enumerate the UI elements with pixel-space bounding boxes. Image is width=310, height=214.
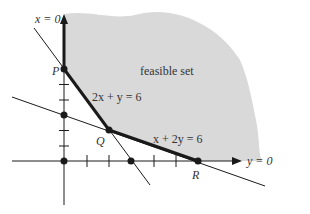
- point-q: [106, 127, 113, 134]
- point-x-intercept: [128, 158, 135, 165]
- feasible-set-diagram: x = 0 y = 0 feasible set 2x + y = 6 x + …: [0, 0, 310, 214]
- point-p: [61, 66, 68, 73]
- label-line-x-plus-2y: x + 2y = 6: [153, 132, 203, 146]
- point-r: [195, 158, 202, 165]
- point-y-intercept: [61, 112, 68, 119]
- point-origin: [61, 158, 68, 165]
- label-x-axis-equation: y = 0: [246, 154, 272, 168]
- label-y-axis-equation: x = 0: [34, 12, 60, 26]
- label-point-r: R: [191, 168, 200, 182]
- label-point-p: P: [51, 64, 60, 78]
- label-feasible-set: feasible set: [140, 64, 194, 78]
- label-point-q: Q: [96, 134, 105, 148]
- label-line-2x-plus-y: 2x + y = 6: [92, 90, 142, 104]
